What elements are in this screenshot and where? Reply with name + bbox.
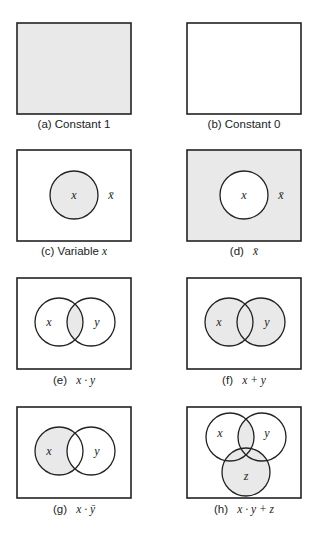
label-xbar: x̄ [107,188,114,202]
panel-e-x-and-y: x y [16,277,132,370]
caption-tag: (e) [53,374,67,386]
panel-d-not-x: x x̄ [186,149,302,242]
panel-h-xy-or-z: x y z [186,406,302,499]
caption-text: Constant 1 [55,118,111,130]
venn-xy-or-z: x y z [186,406,302,499]
label-y: y [263,426,270,440]
venn-x-or-y: x y [186,277,302,370]
venn-x-and-not-y: x y [16,406,132,499]
label-x: x [215,315,222,329]
label-xbar: x̄ [277,188,284,202]
panel-a-constant-1 [16,22,132,115]
label-x: x [216,426,223,440]
label-y: y [263,315,270,329]
caption-tag: (a) [38,118,52,130]
caption-tag: (b) [208,118,222,130]
panel-b-constant-0 [186,22,302,115]
venn-universe-shaded [16,22,132,115]
venn-x-and-y: x y [16,277,132,370]
caption-tag: (d) [230,245,244,257]
panel-c-variable-x: x x̄ [16,149,132,242]
caption-text: Variable [58,245,99,257]
caption-a: (a) Constant 1 [4,118,144,130]
label-x: x [240,188,247,202]
label-x: x [45,315,52,329]
venn-not-x-shaded: x x̄ [186,149,302,242]
label-z: z [243,469,249,483]
caption-expr: x · ȳ [76,503,95,515]
caption-tag: (c) [41,245,54,257]
caption-expr: x̄ [253,245,258,257]
caption-expr: x · y [76,374,95,386]
label-y: y [93,315,100,329]
caption-text: Constant 0 [225,118,281,130]
label-x: x [45,444,52,458]
label-y: y [93,444,100,458]
venn-x-shaded: x x̄ [16,149,132,242]
caption-expr: x [102,245,107,257]
caption-tag: (f) [222,374,233,386]
venn-universe-empty [186,22,302,115]
panel-g-x-and-not-y: x y [16,406,132,499]
caption-d: (d) x̄ [174,245,314,257]
caption-e: (e) x · y [4,374,144,386]
caption-b: (b) Constant 0 [174,118,314,130]
panel-f-x-or-y: x y [186,277,302,370]
caption-expr: x + y [242,374,266,386]
caption-g: (g) x · ȳ [4,503,144,515]
caption-tag: (g) [53,503,67,515]
caption-f: (f) x + y [174,374,314,386]
caption-h: (h) x · y + z [174,503,314,515]
label-x: x [70,188,77,202]
caption-expr: x · y + z [237,503,274,515]
caption-tag: (h) [214,503,228,515]
caption-c: (c) Variablex [4,245,144,257]
